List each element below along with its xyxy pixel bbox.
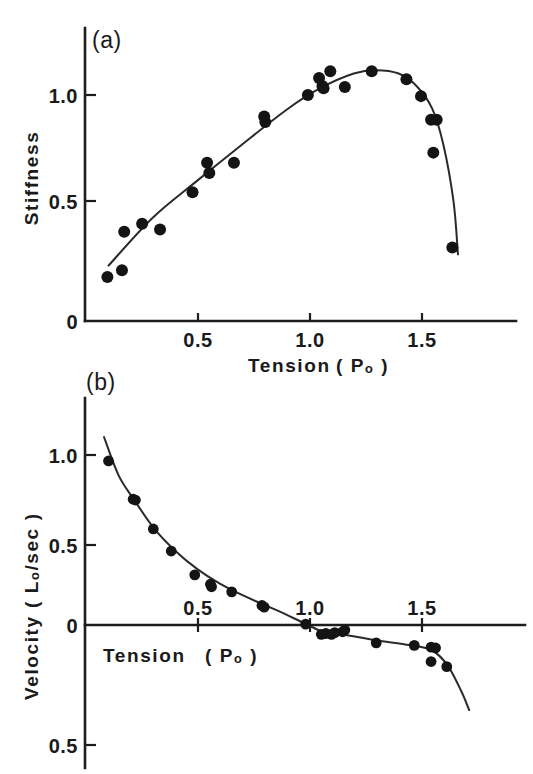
- panel-a-x-axis-title-main: Tension: [248, 355, 331, 376]
- data-point: [189, 569, 200, 580]
- data-point: [166, 546, 177, 557]
- panel-b-label: (b): [86, 369, 116, 395]
- data-point: [130, 495, 141, 506]
- data-point: [101, 271, 113, 283]
- data-point: [259, 602, 270, 613]
- panel-b-x-axis-title: Tension ( Pₒ ): [103, 645, 258, 666]
- panel-a-x-axis-title-unit: ( Pₒ ): [336, 355, 389, 376]
- figure-root: (a) 1.0 0.5 0 0.5 1.0 1.5: [0, 0, 533, 774]
- data-point: [371, 637, 382, 648]
- data-point: [206, 581, 217, 592]
- panel-a-yticklabel-1.0: 1.0: [49, 85, 78, 107]
- data-point: [136, 218, 148, 230]
- data-point: [148, 524, 159, 535]
- panel-b-xticklabel-1.5: 1.5: [407, 597, 436, 619]
- panel-b-x-axis-title-main: Tension: [103, 645, 186, 666]
- panel-b-yticklabel-0.5: 0.5: [49, 535, 78, 557]
- panel-b-xticklabel-0.5: 0.5: [183, 597, 212, 619]
- data-point: [228, 157, 240, 169]
- panel-a-label: (a): [92, 27, 122, 53]
- data-point: [103, 456, 114, 467]
- panel-a-yticklabel-0: 0: [66, 311, 78, 333]
- panel-b-y-axis-title: Velocity ( Lₒ/sec ): [21, 512, 42, 700]
- panel-a-xticklabel-1.0: 1.0: [295, 329, 324, 351]
- panel-b-xticklabel-1.0: 1.0: [295, 597, 324, 619]
- data-point: [366, 65, 378, 77]
- panel-a: (a) 1.0 0.5 0 0.5 1.0 1.5: [21, 27, 516, 376]
- data-point: [226, 586, 237, 597]
- panel-b-y-ticks: [85, 455, 96, 745]
- panel-b-y-axis-title-main: Velocity: [21, 615, 42, 700]
- data-point: [426, 656, 437, 667]
- data-point: [430, 643, 441, 654]
- data-point: [300, 619, 311, 630]
- panel-b-data-points: [103, 456, 452, 672]
- data-point: [400, 73, 412, 85]
- panel-a-data-points: [101, 65, 458, 283]
- panel-a-xticklabel-1.5: 1.5: [407, 329, 436, 351]
- panel-a-yticklabel-0.5: 0.5: [49, 191, 78, 213]
- panel-b-yticklabel-neg0.5: 0.5: [49, 735, 78, 757]
- data-point: [339, 625, 350, 636]
- panel-a-x-axis-title: Tension ( Pₒ ): [248, 355, 389, 376]
- data-point: [441, 661, 452, 672]
- data-point: [302, 89, 314, 101]
- data-point: [339, 81, 351, 93]
- data-point: [116, 264, 128, 276]
- data-point: [409, 640, 420, 651]
- data-point: [427, 147, 439, 159]
- panel-b-yticklabel-0: 0: [66, 615, 78, 637]
- data-point: [415, 90, 427, 102]
- scientific-figure: (a) 1.0 0.5 0 0.5 1.0 1.5: [0, 0, 533, 774]
- data-point: [201, 157, 213, 169]
- data-point: [318, 82, 330, 94]
- data-point: [187, 186, 199, 198]
- panel-b-yticklabel-1.0: 1.0: [49, 445, 78, 467]
- panel-b-fit-curve: [104, 437, 469, 710]
- data-point: [324, 65, 336, 77]
- panel-a-y-axis-title: Stiffness: [21, 131, 42, 226]
- data-point: [154, 223, 166, 235]
- data-point: [446, 242, 458, 254]
- panel-b: (b) 1.0 0.5 0 0.5 0.5: [21, 369, 525, 768]
- panel-a-fit-curve: [109, 70, 458, 265]
- data-point: [259, 116, 271, 128]
- panel-b-x-axis-title-unit: ( Pₒ ): [205, 645, 258, 666]
- panel-a-y-ticks: [85, 95, 96, 201]
- panel-a-xticklabel-0.5: 0.5: [183, 329, 212, 351]
- data-point: [431, 114, 443, 126]
- data-point: [203, 167, 215, 179]
- data-point: [118, 226, 130, 238]
- panel-b-y-axis-title-unit: ( Lₒ/sec ): [21, 512, 42, 608]
